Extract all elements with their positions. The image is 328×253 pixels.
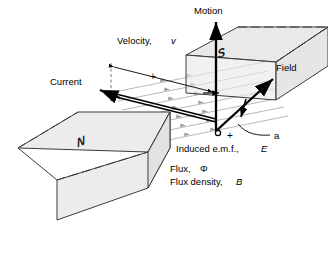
lower-magnet-fold-edge: [18, 148, 57, 180]
flux-label: Flux,: [170, 163, 191, 174]
diagram-canvas: N + − S +: [0, 0, 328, 253]
flux-density-label-group: Flux density, B: [170, 176, 243, 187]
corner-leader-group: a: [238, 99, 280, 141]
upper-magnet-south: S: [186, 27, 328, 100]
velocity-label-group: Velocity, v: [117, 35, 177, 46]
field-label: Field: [276, 62, 297, 73]
induced-emf-label-group: Induced e.m.f., E: [176, 143, 268, 154]
upper-magnet-front-face: [186, 55, 276, 100]
flux-label-group: Flux, Φ: [170, 163, 208, 174]
flux-density-label: Flux density,: [170, 176, 223, 187]
velocity-symbol: v: [171, 35, 177, 46]
velocity-label: Velocity,: [117, 35, 152, 46]
flux-density-symbol: B: [236, 176, 243, 187]
induction-diagram: N + − S +: [0, 0, 328, 253]
lower-magnet-top-face: [18, 112, 170, 152]
terminal-positive-sign: +: [227, 130, 233, 141]
dimension-label-a: a: [274, 130, 280, 141]
dimension-leader-curve: [238, 124, 270, 135]
induced-emf-symbol: E: [261, 143, 268, 154]
motion-label: Motion: [194, 5, 223, 16]
current-label: Current: [50, 76, 82, 87]
lower-magnet-north: N: [18, 112, 170, 220]
induced-emf-label: Induced e.m.f.,: [176, 143, 239, 154]
flux-symbol: Φ: [200, 163, 208, 174]
dimension-tick-mark: +: [150, 71, 156, 82]
